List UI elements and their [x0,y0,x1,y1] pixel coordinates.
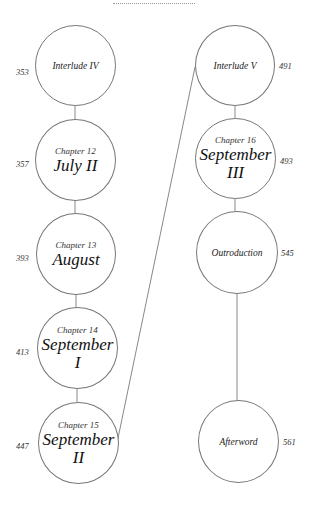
page-number: 447 [16,441,29,451]
node-title-line1: September [43,431,115,449]
page-number: 353 [16,67,29,77]
node-title: Interlude V [213,60,256,72]
node-title: Afterword [219,436,257,448]
node-title: August [52,251,99,269]
node-title-line1: September [200,146,272,164]
chapter-label: Chapter 13 [56,240,97,251]
node-chapter-13: Chapter 13 August [36,213,116,295]
node-title-line2: I [75,354,81,372]
node-afterword: Afterword [198,400,279,483]
node-title-line2: II [73,449,84,467]
node-interlude-v: Interlude V [195,25,275,106]
page-number: 545 [281,248,294,258]
edge-ch15-interlude-v [117,67,195,443]
page-number: 491 [279,61,292,71]
page-number: 413 [16,347,29,357]
chapter-label: Chapter 14 [57,325,98,336]
node-outroduction: Outroduction [196,211,278,294]
node-title: Interlude IV [52,60,98,72]
page-number: 357 [16,159,29,169]
node-chapter-12: Chapter 12 July II [35,119,116,201]
node-title-line2: III [227,164,244,182]
node-title: July II [54,157,98,175]
page-number: 493 [280,156,293,166]
node-interlude-iv: Interlude IV [35,25,116,106]
node-chapter-14: Chapter 14 September I [37,307,118,389]
page-number: 561 [283,437,296,447]
node-title: Outroduction [212,247,263,259]
page-number: 393 [16,253,29,263]
chapter-label: Chapter 12 [55,146,96,157]
node-title-line1: September [42,336,114,354]
chapter-label: Chapter 15 [58,420,99,431]
node-chapter-15: Chapter 15 September II [38,402,119,484]
node-chapter-16: Chapter 16 September III [195,118,276,199]
